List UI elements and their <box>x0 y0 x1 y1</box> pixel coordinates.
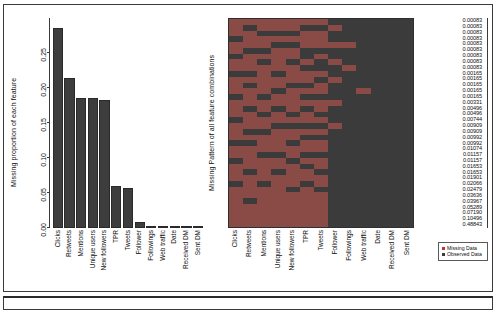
heatmap-panel: Missing Pattern of all feature combinati… <box>208 10 423 286</box>
bar-slot <box>99 18 111 228</box>
bar-slot <box>52 18 64 228</box>
x-label-slot: Received DM <box>385 230 399 286</box>
x-label-slot: Unique users <box>271 230 285 286</box>
x-label-slot: Sent DM <box>400 230 414 286</box>
y-tick-mark <box>47 122 50 123</box>
bar <box>170 226 180 228</box>
heatmap-y-axis-label: Missing Pattern of all feature combinati… <box>208 20 215 225</box>
x-label-slot: Clicks <box>228 230 242 286</box>
bar-chart-panel: Missing proportion of each feature 0.000… <box>8 10 208 286</box>
heatmap-x-label: TPR <box>303 230 310 243</box>
bar-chart-bars <box>52 18 204 228</box>
bar-chart-x-label: TPR <box>113 230 120 243</box>
heatmap-x-label: Web traffic <box>361 230 368 261</box>
heatmap-cell <box>314 221 328 227</box>
row-proportion-label: 0.48843 <box>424 222 490 228</box>
bar-chart-x-label: Clicks <box>55 230 62 247</box>
bar-slot <box>110 18 122 228</box>
x-label-slot: Followings <box>146 230 158 286</box>
x-label-slot: New followers <box>285 230 299 286</box>
y-tick-mark <box>47 192 50 193</box>
bar-chart-x-label: Received DM <box>183 230 190 269</box>
heatmap-cell <box>286 221 300 227</box>
heatmap-cell <box>257 221 271 227</box>
bar <box>64 78 74 229</box>
x-label-slot: Follower <box>328 230 342 286</box>
bar-slot <box>169 18 181 228</box>
x-label-slot: Unique users <box>87 230 99 286</box>
bar-chart-x-label: New followers <box>101 230 108 270</box>
heatmap-cell <box>356 221 370 227</box>
x-label-slot: TPR <box>300 230 314 286</box>
legend-item: Observed Data <box>442 252 484 257</box>
y-tick-label: 0.20 <box>40 83 47 97</box>
x-label-slot: Tweets <box>122 230 134 286</box>
bar <box>88 98 98 228</box>
y-tick-label: 0.00 <box>40 223 47 237</box>
bar-slot <box>122 18 134 228</box>
heatmap-cell <box>399 221 413 227</box>
heatmap-x-label: Unique users <box>275 230 282 268</box>
x-label-slot: TPR <box>110 230 122 286</box>
bar <box>146 226 156 228</box>
heatmap-x-label: Date <box>375 230 382 244</box>
y-tick-label: 0.05 <box>40 188 47 202</box>
heatmap-cell <box>300 221 314 227</box>
heatmap-x-label: Clicks <box>232 230 239 247</box>
bar-slot <box>75 18 87 228</box>
y-tick-mark <box>47 52 50 53</box>
legend-swatch-icon <box>442 247 445 250</box>
heatmap-cell <box>385 221 399 227</box>
bar-chart-x-label: Mentions <box>78 230 85 256</box>
bar <box>76 98 86 228</box>
x-label-slot: Clicks <box>52 230 64 286</box>
bar-chart-x-label: Web traffic <box>160 230 167 261</box>
bar-chart-x-label: Tweets <box>125 230 132 251</box>
x-label-slot: Tweets <box>314 230 328 286</box>
bar-slot <box>146 18 158 228</box>
x-label-slot: New followers <box>99 230 111 286</box>
heatmap-x-label: New followers <box>289 230 296 270</box>
bar-chart-x-label: Follower <box>136 230 143 255</box>
bar-chart-x-label: Sent DM <box>195 230 202 255</box>
bar <box>99 100 109 228</box>
bar-chart-y-axis-label: Missing proportion of each feature <box>10 40 17 225</box>
x-label-slot: Date <box>371 230 385 286</box>
bar-chart-y-axis: 0.000.050.100.150.200.25 <box>26 18 50 228</box>
x-label-slot: Follower <box>134 230 146 286</box>
heatmap-x-label: Sent DM <box>404 230 411 255</box>
bar <box>111 186 121 228</box>
heatmap-x-label: Tweets <box>318 230 325 251</box>
x-label-slot: Retweets <box>242 230 256 286</box>
bar-slot <box>64 18 76 228</box>
x-label-slot: Date <box>169 230 181 286</box>
heatmap-cell <box>271 221 285 227</box>
bar-chart-x-label: Unique users <box>90 230 97 268</box>
bar-chart-axis-line <box>49 18 50 228</box>
heatmap-x-axis-labels: ClicksRetweetsMentionsUnique usersNew fo… <box>228 230 414 286</box>
bar-chart-x-axis-labels: ClicksRetweetsMentionsUnique usersNew fo… <box>52 230 204 286</box>
figure-caption-strip <box>3 296 493 310</box>
bar-slot <box>192 18 204 228</box>
y-tick-mark <box>47 87 50 88</box>
x-label-slot: Sent DM <box>192 230 204 286</box>
x-label-slot: Web traffic <box>157 230 169 286</box>
y-tick-mark <box>47 157 50 158</box>
y-tick-label: 0.10 <box>40 153 47 167</box>
heatmap-x-label: Received DM <box>389 230 396 269</box>
bar-slot <box>134 18 146 228</box>
bar-chart-x-label: Date <box>171 230 178 244</box>
bar <box>158 226 168 228</box>
x-label-slot: Followings <box>343 230 357 286</box>
row-proportions-list: 0.000830.000830.000830.000830.000830.000… <box>424 18 490 228</box>
heatmap-cell <box>229 221 243 227</box>
x-label-slot: Received DM <box>181 230 193 286</box>
bar-slot <box>87 18 99 228</box>
bar <box>53 28 63 228</box>
heatmap-cell <box>342 221 356 227</box>
heatmap-x-label: Retweets <box>246 230 253 257</box>
y-tick-mark <box>47 227 50 228</box>
y-tick-label: 0.15 <box>40 118 47 132</box>
bar <box>181 226 191 228</box>
heatmap-cell <box>328 221 342 227</box>
